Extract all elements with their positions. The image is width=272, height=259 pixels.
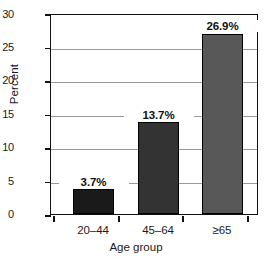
bar-65-plus [202,34,243,214]
y-axis-tick-label-30: 30 [0,9,14,20]
y-axis-tick-label-25: 25 [0,42,14,53]
plot-area: 3.7% 13.7% 26.9% [50,14,258,215]
y-axis-tick-mark-0 [45,215,51,217]
x-axis-tick-mark-2 [182,216,184,222]
y-axis-tick-label-10: 10 [0,142,14,153]
bar-20-44 [73,189,114,214]
bar-value-label-65-plus: 26.9% [188,20,258,32]
bar-chart-figure: Percent 30 25 20 15 10 5 0 3.7% 13.7% 26… [0,0,272,259]
y-axis-tick-label-0: 0 [0,209,14,220]
bar-45-64 [138,122,179,214]
y-axis-tick-label-20: 20 [0,75,14,86]
y-axis-tick-label-5: 5 [0,176,14,187]
y-axis-tick-label-15: 15 [0,109,14,120]
x-axis-tick-mark-3 [247,216,249,222]
x-axis-tick-mark-0 [53,216,55,222]
x-axis-tick-label-65-plus: ≥65 [182,224,262,236]
bar-value-label-45-64: 13.7% [124,109,194,121]
x-axis-title: Age group [0,241,272,253]
x-axis-tick-mark-1 [118,216,120,222]
bar-value-label-20-44: 3.7% [59,176,129,188]
